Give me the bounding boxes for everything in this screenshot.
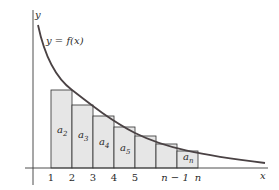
tick-n-minus-1: n − 1 [161, 172, 189, 183]
tick-4: 4 [111, 172, 117, 183]
y-axis-label: y [34, 9, 41, 20]
tick-n: n [195, 172, 201, 183]
tick-5: 5 [132, 172, 138, 183]
x-axis-label: x [260, 170, 266, 181]
tick-1: 1 [48, 172, 54, 183]
tick-3: 3 [90, 172, 96, 183]
curve-label: y = f(x) [45, 35, 84, 46]
rectangles [51, 90, 198, 168]
series-comparison-diagram: y x y = f(x) 1 2 3 4 5 n − 1 n a2 a3 a4 … [0, 0, 279, 190]
tick-labels: 1 2 3 4 5 n − 1 n [48, 172, 201, 183]
tick-2: 2 [69, 172, 75, 183]
